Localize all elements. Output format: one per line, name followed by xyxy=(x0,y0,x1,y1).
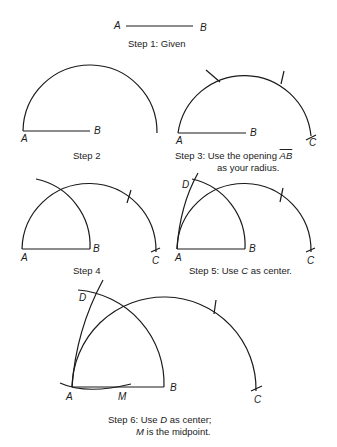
label-a: A xyxy=(176,136,183,146)
step6-caption-line2-var: M xyxy=(136,426,144,437)
arc-center-d xyxy=(60,383,131,389)
label-a: A xyxy=(175,253,182,263)
step6-caption-prefix: Step 6: Use xyxy=(108,414,160,425)
construction-drawings xyxy=(0,0,337,447)
label-d: D xyxy=(182,180,189,190)
label-b: B xyxy=(250,128,257,138)
step6-caption: Step 6: Use D as center; xyxy=(108,414,212,425)
tick-mark xyxy=(206,70,220,82)
arc-center-b xyxy=(22,184,156,252)
label-c: C xyxy=(152,256,159,266)
step3-caption-prefix: Step 3: Use the opening xyxy=(175,150,280,161)
step5-caption: Step 5: Use C as center. xyxy=(189,265,292,276)
label-c: C xyxy=(309,138,316,148)
step6-caption-line2: M is the midpoint. xyxy=(136,426,210,437)
step5-caption-prefix: Step 5: Use xyxy=(189,265,241,276)
label-b: B xyxy=(94,126,101,136)
arc-center-a xyxy=(36,179,90,249)
arc-center-a xyxy=(192,179,245,249)
step4-figure xyxy=(22,179,160,252)
label-b: B xyxy=(170,383,177,393)
label-b: B xyxy=(200,23,207,33)
label-c: C xyxy=(307,256,314,266)
step6-caption-line2-suffix: is the midpoint. xyxy=(144,426,211,437)
step5-caption-suffix: as center. xyxy=(248,265,292,276)
step2-caption: Step 2 xyxy=(73,150,100,161)
label-a: A xyxy=(21,134,28,144)
tick-mark xyxy=(127,190,131,203)
segment-ab-notation: AB xyxy=(280,150,293,161)
label-c: C xyxy=(254,395,261,405)
label-a: A xyxy=(66,392,73,402)
step6-caption-suffix: as center; xyxy=(167,414,211,425)
arc-center-b xyxy=(177,184,311,252)
label-m: M xyxy=(118,392,126,402)
step5-figure xyxy=(177,173,315,252)
label-a: A xyxy=(114,21,121,31)
tick-mark xyxy=(281,71,284,84)
label-a: A xyxy=(21,253,28,263)
arc-center-c xyxy=(72,280,103,387)
label-d: D xyxy=(79,293,86,303)
label-b: B xyxy=(93,244,100,254)
step1-caption: Step 1: Given xyxy=(128,38,186,49)
step3-figure xyxy=(178,70,316,140)
step6-figure xyxy=(60,280,262,391)
step4-caption: Step 4 xyxy=(73,265,100,276)
step2-figure xyxy=(23,65,157,133)
arc-center-b xyxy=(178,76,311,136)
label-b: B xyxy=(249,244,256,254)
arc-center-b xyxy=(23,65,157,133)
step3-caption: Step 3: Use the opening AB xyxy=(175,150,292,161)
step3-caption-line2: as your radius. xyxy=(217,162,279,173)
